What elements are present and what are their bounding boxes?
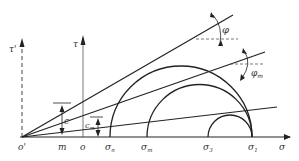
m-label: m <box>58 142 67 152</box>
phi-arrow-icon <box>210 12 215 18</box>
c-m-label: cm <box>85 121 95 131</box>
tau-prime-arrow-icon <box>20 38 25 47</box>
tau-label: τ <box>73 39 79 49</box>
c-arrow-up-icon <box>60 105 65 112</box>
mohr-circle-large <box>110 66 252 137</box>
mohr-circle-small <box>208 115 252 137</box>
o-label: o <box>80 142 86 152</box>
c-label: c <box>64 116 69 126</box>
mohr-diagram: φ φm c cm τ' τ σ o' m o σn σm σ3 σ1 <box>0 0 299 161</box>
tau-arrow-icon <box>81 35 86 45</box>
sigma-axis-label: σ <box>279 142 286 152</box>
phi-label: φ <box>222 24 229 35</box>
tau-prime-label: τ' <box>9 44 16 54</box>
phi-m-label: φm <box>251 68 263 79</box>
c-m-arrow-down-icon <box>96 130 101 137</box>
sigma-3-label: σ3 <box>203 142 213 153</box>
phi-m-angle-arc <box>242 52 248 78</box>
sigma-1-label: σ1 <box>248 142 258 153</box>
envelope-line-phi <box>22 15 233 137</box>
sigma-m-label: σm <box>141 142 152 153</box>
envelope-line-phi-m <box>22 52 265 137</box>
c-m-arrow-up-icon <box>96 118 101 125</box>
sigma-n-label: σn <box>105 142 115 153</box>
phi-m-arrow-icon <box>242 48 247 54</box>
o-prime-label: o' <box>18 142 26 152</box>
phi-angle-arc <box>213 15 221 44</box>
